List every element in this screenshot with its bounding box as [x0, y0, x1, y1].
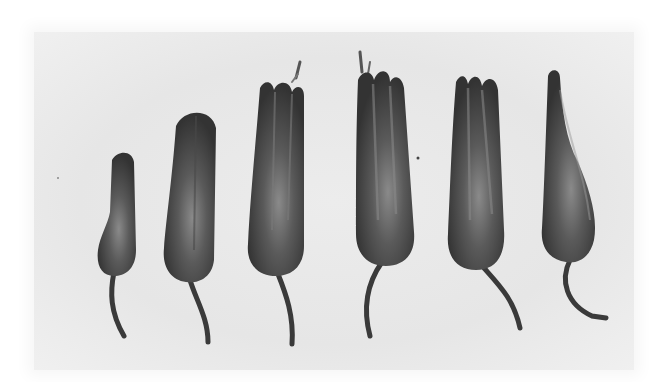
bud-body [356, 71, 414, 266]
bud-body [248, 82, 304, 276]
stalk [366, 262, 382, 336]
bud-4 [356, 52, 414, 336]
speck [57, 177, 59, 179]
stamen [360, 52, 362, 72]
stalk [112, 272, 124, 336]
stalk [565, 260, 606, 318]
bud-body [164, 113, 216, 283]
flower-bud-photograph [0, 0, 657, 382]
bud-6 [542, 70, 606, 318]
bud-5 [448, 76, 520, 328]
speck [417, 157, 420, 160]
bud-body [98, 153, 136, 276]
bud-body [448, 76, 504, 270]
stalk [484, 268, 520, 328]
stalk [278, 274, 292, 344]
bud-3 [248, 62, 304, 344]
stalk [190, 280, 208, 342]
bud-2 [164, 113, 216, 342]
bud-1 [98, 153, 136, 336]
bud-body [542, 70, 595, 262]
buds-illustration [0, 0, 657, 382]
stamen [368, 62, 370, 74]
